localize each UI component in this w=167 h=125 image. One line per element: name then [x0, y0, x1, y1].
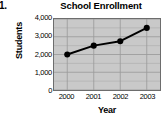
y-axis-tick-label: 1,000 [20, 69, 52, 77]
y-axis-tick-label: 4,000 [20, 14, 52, 22]
y-axis-tick-label: 3,000 [20, 33, 52, 41]
data-line [67, 28, 147, 55]
x-axis-title: Year [53, 106, 161, 115]
data-point-marker [91, 43, 97, 49]
x-axis-tick-label: 2002 [106, 93, 136, 101]
chart-title: School Enrollment [38, 1, 164, 11]
line-chart-svg [54, 19, 160, 90]
y-axis-tick-labels: 4,0003,0002,0001,0000 [20, 18, 52, 91]
x-axis-tick-label: 2000 [52, 93, 82, 101]
data-point-marker [64, 51, 70, 57]
plot-area [53, 18, 161, 91]
y-axis-tick-label: 0 [20, 87, 52, 95]
question-number: 1. [0, 1, 7, 11]
x-axis-tick-labels: 2000200120022003 [53, 93, 161, 104]
chart-figure: 1. School Enrollment Students 4,0003,000… [0, 0, 167, 125]
y-axis-tick-label: 2,000 [20, 51, 52, 59]
data-point-marker [144, 25, 150, 31]
x-axis-tick-label: 2001 [79, 93, 109, 101]
data-point-marker [117, 38, 123, 44]
x-axis-tick-label: 2003 [133, 93, 163, 101]
